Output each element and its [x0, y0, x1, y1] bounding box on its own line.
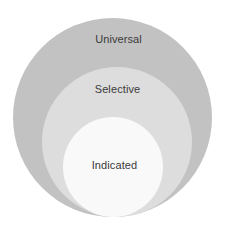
nested-circles-diagram: Universal Selective Indicated — [0, 0, 225, 233]
label-universal: Universal — [0, 33, 225, 46]
label-indicated: Indicated — [0, 159, 225, 172]
label-selective: Selective — [0, 83, 225, 96]
